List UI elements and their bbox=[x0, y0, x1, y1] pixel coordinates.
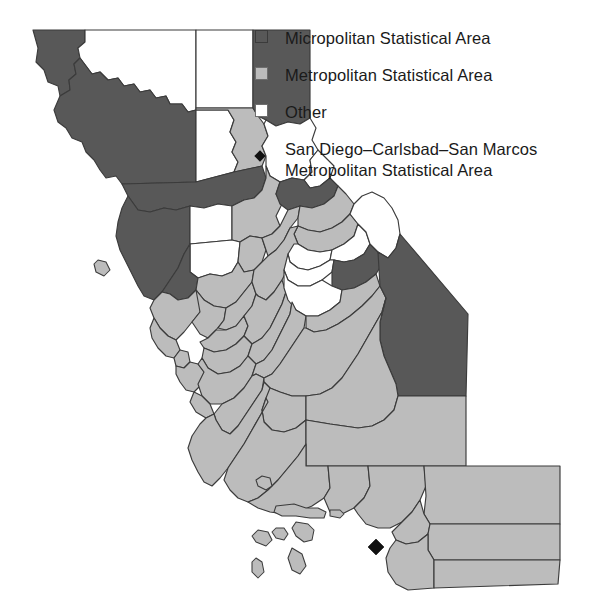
map-legend: Micropolitan Statistical Area Metropolit… bbox=[255, 28, 585, 181]
island-small-coastal bbox=[252, 558, 264, 578]
legend-swatch-cell bbox=[255, 139, 285, 164]
legend-item-micropolitan[interactable]: Micropolitan Statistical Area bbox=[255, 28, 585, 49]
legend-swatch-cell bbox=[255, 102, 285, 117]
island-santa-catalina bbox=[292, 522, 314, 542]
legend-item-san-diego[interactable]: San Diego–Carlsbad–San Marcos Metropolit… bbox=[255, 139, 585, 181]
legend-label-micropolitan: Micropolitan Statistical Area bbox=[285, 28, 491, 49]
island-san-clemente bbox=[252, 530, 272, 546]
legend-swatch-cell bbox=[255, 28, 285, 43]
county-san-bernardino[interactable] bbox=[424, 466, 560, 524]
county-trinity[interactable] bbox=[196, 110, 238, 182]
island-san-nicolas bbox=[288, 548, 306, 574]
legend-item-metropolitan[interactable]: Metropolitan Statistical Area bbox=[255, 65, 585, 86]
filled-square-icon bbox=[255, 67, 268, 80]
legend-label-metropolitan: Metropolitan Statistical Area bbox=[285, 65, 492, 86]
county-imperial[interactable] bbox=[434, 560, 560, 588]
empty-square-icon bbox=[255, 104, 268, 117]
county-modoc[interactable] bbox=[196, 30, 253, 108]
legend-swatch-cell bbox=[255, 65, 285, 80]
legend-item-other[interactable]: Other bbox=[255, 102, 585, 123]
legend-label-san-diego-line1: San Diego–Carlsbad–San Marcos bbox=[285, 140, 537, 158]
county-glenn[interactable] bbox=[190, 204, 232, 244]
island-small-north bbox=[94, 260, 110, 276]
island-anacapa bbox=[330, 510, 344, 518]
legend-label-other: Other bbox=[285, 102, 327, 123]
island-santa-barbara-island bbox=[272, 528, 288, 540]
legend-label-san-diego-line2: Metropolitan Statistical Area bbox=[285, 160, 537, 181]
filled-diamond-icon bbox=[255, 151, 268, 164]
legend-label-san-diego: San Diego–Carlsbad–San Marcos Metropolit… bbox=[285, 139, 537, 181]
san-diego-marker-diamond[interactable] bbox=[368, 539, 384, 555]
filled-square-icon bbox=[255, 30, 268, 43]
statistical-area-map-figure: Micropolitan Statistical Area Metropolit… bbox=[0, 0, 597, 610]
island-santa-cruz-island bbox=[274, 504, 326, 518]
county-riverside[interactable] bbox=[428, 524, 560, 560]
county-inyo[interactable] bbox=[378, 234, 468, 396]
